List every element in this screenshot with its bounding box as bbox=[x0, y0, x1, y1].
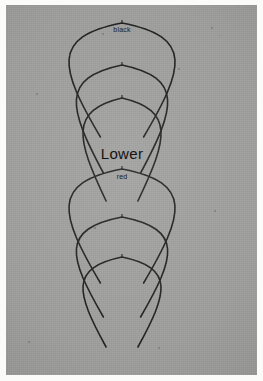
archwire-red-arch-1 bbox=[69, 169, 175, 283]
archwire-diagram bbox=[6, 5, 257, 375]
photograph: black Lower red bbox=[6, 5, 257, 375]
label-red: red bbox=[117, 173, 128, 180]
page-title: Lower bbox=[101, 145, 143, 162]
photo-frame: black Lower red bbox=[0, 0, 263, 381]
archwire-red-arch-2 bbox=[76, 217, 167, 317]
archwire-paths bbox=[69, 23, 175, 347]
label-black: black bbox=[113, 26, 130, 33]
